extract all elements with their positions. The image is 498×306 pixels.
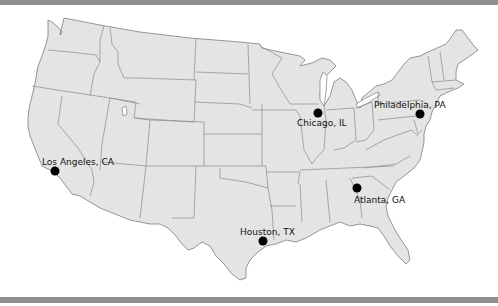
marker-chicago[interactable] bbox=[314, 109, 323, 118]
us-landmass bbox=[28, 18, 478, 280]
us-map bbox=[0, 0, 498, 306]
city-label-los-angeles: Los Angeles, CA bbox=[42, 157, 114, 167]
city-label-houston: Houston, TX bbox=[240, 227, 295, 237]
marker-philadelphia[interactable] bbox=[416, 110, 425, 119]
city-label-chicago: Chicago, IL bbox=[297, 118, 347, 128]
city-label-philadelphia: Philadelphia, PA bbox=[374, 100, 446, 110]
marker-houston[interactable] bbox=[259, 237, 268, 246]
city-label-atlanta: Atlanta, GA bbox=[354, 195, 405, 205]
great-salt-lake bbox=[122, 106, 127, 116]
lake-michigan bbox=[320, 72, 327, 106]
marker-los-angeles[interactable] bbox=[51, 167, 60, 176]
bottom-frame-band bbox=[0, 297, 498, 303]
marker-atlanta[interactable] bbox=[353, 184, 362, 193]
